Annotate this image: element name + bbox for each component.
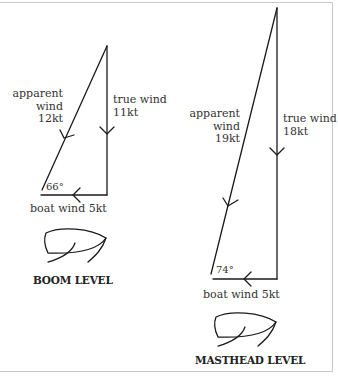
masthead-boat-wind-label: boat wind 5kt [203, 289, 280, 302]
boom-apparent-wind-label: apparent wind 12kt [13, 88, 63, 126]
masthead-angle-label: 74° [216, 264, 234, 277]
true-wind-speed: 11kt [113, 107, 167, 120]
boom-true-wind-label: true wind 11kt [113, 94, 167, 119]
apparent-wind-speed: 12kt [13, 113, 63, 126]
boom-boat-wind-label: boat wind 5kt [30, 203, 107, 216]
boom-angle-label: 66° [46, 181, 64, 194]
masthead-apparent-wind-label: apparent wind 19kt [190, 108, 240, 146]
boat-hull-icon-masthead [215, 313, 276, 346]
masthead-level-title: MASTHEAD LEVEL [195, 354, 305, 367]
true-wind-label-line1: true wind [283, 113, 337, 126]
apparent-wind-arrowhead-icon [223, 198, 238, 206]
apparent-wind-speed: 19kt [190, 133, 240, 146]
apparent-wind-label-line1: apparent [190, 108, 240, 121]
true-wind-label-line1: true wind [113, 94, 167, 107]
apparent-wind-label-line1: apparent [13, 88, 63, 101]
boat-hull-icon-boom [45, 229, 106, 262]
boom-level-title: BOOM LEVEL [33, 274, 113, 287]
true-wind-speed: 18kt [283, 126, 337, 139]
masthead-level-triangle [211, 8, 284, 286]
masthead-true-wind-label: true wind 18kt [283, 113, 337, 138]
